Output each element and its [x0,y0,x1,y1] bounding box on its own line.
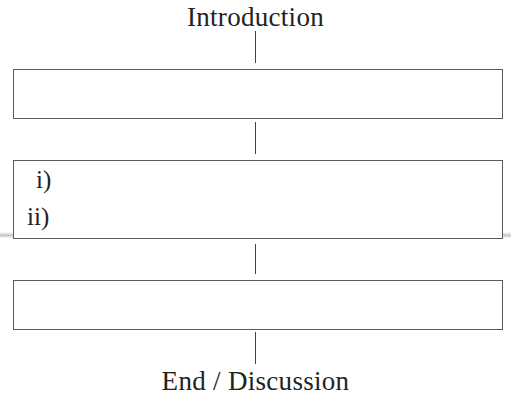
connector-line [255,332,256,364]
end-discussion-label: End / Discussion [0,366,511,394]
list-item-i: i) [36,166,51,194]
connector-line [255,244,256,274]
list-item-ii: ii) [27,203,49,231]
flow-box-1 [13,69,503,119]
flow-box-2: i) ii) [13,160,503,239]
introduction-label: Introduction [0,2,511,32]
connector-line [255,122,256,154]
connector-line [255,31,256,63]
flow-box-3 [13,280,503,330]
